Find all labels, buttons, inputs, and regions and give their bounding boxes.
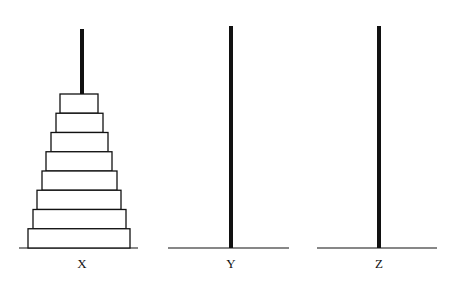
peg-label-y: Y (226, 256, 236, 271)
disk-1 (60, 94, 98, 113)
disk-2 (56, 113, 103, 132)
disk-3 (51, 133, 108, 152)
disk-7 (33, 210, 126, 229)
peg-y (229, 26, 233, 248)
disk-6 (37, 190, 121, 209)
disk-4 (46, 152, 112, 171)
peg-z (377, 26, 381, 248)
peg-label-x: X (77, 256, 87, 271)
disk-stack (28, 94, 130, 248)
peg-label-z: Z (375, 256, 383, 271)
disk-8 (28, 229, 130, 248)
disk-5 (42, 171, 117, 190)
peg-labels: X Y Z (77, 256, 383, 271)
tower-of-hanoi-diagram: X Y Z (0, 0, 459, 285)
